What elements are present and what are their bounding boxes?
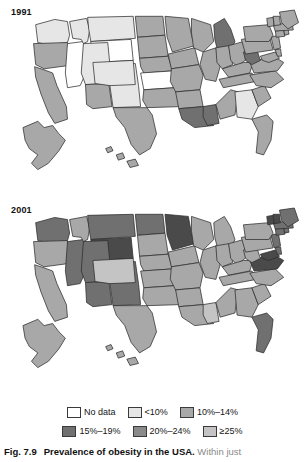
map-state-id: [70, 216, 90, 241]
map-state-co: [93, 60, 135, 85]
map-legend: No data<10%10%–14% 15%–19%20%–24%≥25%: [0, 403, 305, 443]
map-state-nc: [250, 269, 284, 286]
map-state-mo: [170, 263, 203, 290]
map-state-nc: [250, 71, 284, 88]
map-state-ks: [141, 71, 175, 90]
legend-label: No data: [84, 407, 116, 418]
map-state-ak: [23, 121, 65, 169]
map-state-mt: [88, 16, 136, 41]
legend-label: 20%–24%: [150, 426, 191, 437]
map-state-or: [34, 241, 71, 267]
legend-item: 20%–24%: [133, 426, 191, 437]
legend-swatch: [133, 426, 147, 437]
map-state-nd: [135, 214, 165, 235]
legend-label: <10%: [145, 407, 168, 418]
legend-swatch: [203, 426, 217, 437]
map-state-co: [93, 258, 135, 283]
map-state-hi: [106, 345, 113, 351]
legend-row-2: 15%–19%20%–24%≥25%: [0, 422, 305, 441]
map-state-nh: [273, 16, 280, 25]
legend-row-1: No data<10%10%–14%: [0, 403, 305, 422]
map-state-fl: [252, 115, 273, 155]
map-panel-1991: 1991: [0, 2, 305, 192]
map-state-hi: [127, 357, 139, 365]
legend-label: ≥25%: [220, 426, 243, 437]
map-state-sd: [137, 35, 168, 58]
map-state-ne: [140, 254, 173, 271]
map-state-az: [85, 84, 112, 109]
usa-choropleth-1991: [0, 2, 305, 192]
legend-swatch: [180, 407, 194, 418]
legend-swatch: [67, 407, 81, 418]
map-state-hi: [116, 351, 124, 358]
legend-item: 15%–19%: [62, 426, 120, 437]
map-state-or: [34, 43, 71, 69]
map-state-fl: [252, 313, 273, 353]
legend-swatch: [62, 426, 76, 437]
figure-container: 1991 2001 No data<10%10%–14% 15%–19%20%–…: [0, 0, 305, 462]
map-state-wi: [191, 216, 213, 250]
legend-swatch: [128, 407, 142, 418]
map-state-ca: [35, 67, 68, 124]
map-state-ak: [23, 319, 65, 367]
map-state-ny: [243, 25, 273, 42]
legend-item: <10%: [128, 407, 168, 418]
map-state-nh: [273, 214, 280, 223]
legend-label: 15%–19%: [79, 426, 120, 437]
map-state-wi: [191, 18, 213, 52]
map-state-nd: [135, 16, 165, 37]
map-panel-2001: 2001: [0, 196, 305, 394]
map-state-tx: [113, 108, 156, 155]
map-state-hi: [127, 159, 139, 167]
map-state-ca: [35, 265, 68, 322]
figure-caption-text: Within just: [195, 446, 241, 457]
legend-item: 10%–14%: [180, 407, 238, 418]
map-state-hi: [106, 147, 113, 153]
map-state-wa: [36, 19, 70, 44]
map-state-sd: [137, 233, 168, 256]
map-state-ne: [140, 56, 173, 73]
map-state-hi: [116, 153, 124, 160]
figure-number: Fig. 7.9: [4, 446, 37, 457]
map-state-mn: [165, 16, 195, 52]
legend-item: ≥25%: [203, 426, 243, 437]
map-state-wa: [36, 217, 70, 242]
map-state-ks: [141, 269, 175, 288]
map-state-mo: [170, 65, 203, 92]
map-state-ar: [176, 288, 204, 307]
legend-item: No data: [67, 407, 116, 418]
map-state-az: [85, 282, 112, 307]
figure-title: Prevalence of obesity in the USA.: [44, 446, 195, 457]
usa-choropleth-2001: [0, 196, 305, 394]
map-state-ar: [176, 90, 204, 109]
figure-caption: Fig. 7.9Prevalence of obesity in the USA…: [4, 446, 304, 458]
map-state-ny: [243, 223, 273, 240]
map-state-id: [70, 18, 90, 43]
map-state-mt: [88, 214, 136, 239]
map-state-tx: [113, 306, 156, 353]
map-state-mn: [165, 214, 195, 250]
legend-label: 10%–14%: [197, 407, 238, 418]
